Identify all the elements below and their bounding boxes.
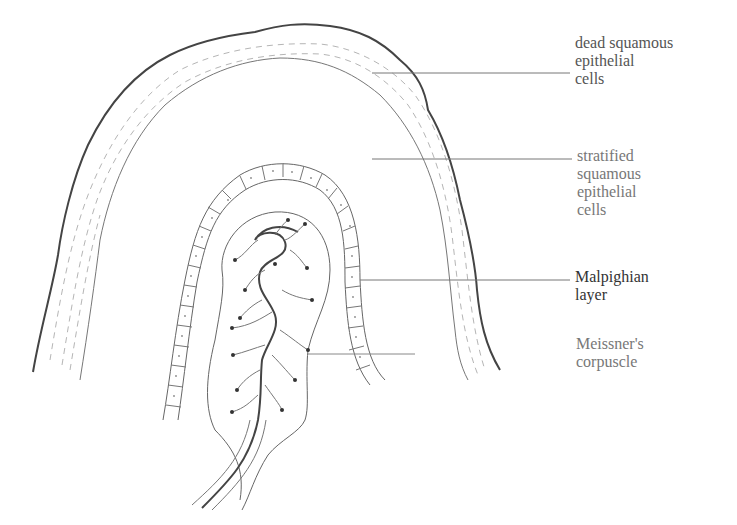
label-line: stratified (577, 147, 641, 165)
label-line: Malpighian (575, 268, 649, 286)
label-line: layer (575, 286, 649, 304)
label-meissners-corpuscle: Meissner's corpuscle (576, 335, 644, 371)
dermal-papilla-outline (208, 212, 331, 510)
label-line: epithelial (575, 52, 673, 70)
label-line: Meissner's (576, 335, 644, 353)
dead-cell-hatching (50, 44, 485, 375)
dead-cell-layer-outer-edge (33, 24, 500, 372)
label-line: corpuscle (576, 353, 644, 371)
label-malpighian-layer: Malpighian layer (575, 268, 649, 304)
label-stratified-squamous-cells: stratified squamous epithelial cells (577, 147, 641, 219)
malpighian-layer-inner (178, 180, 370, 421)
nerve-endings (232, 220, 312, 412)
label-line: epithelial (577, 183, 641, 201)
label-dead-squamous-cells: dead squamous epithelial cells (575, 34, 673, 88)
nerve-ending-dots (230, 218, 314, 414)
label-line: cells (577, 201, 641, 219)
label-line: dead squamous (575, 34, 673, 52)
label-line: squamous (577, 165, 641, 183)
label-line: cells (575, 70, 673, 88)
malpighian-layer-outer (163, 164, 385, 420)
label-pointers (308, 73, 572, 354)
